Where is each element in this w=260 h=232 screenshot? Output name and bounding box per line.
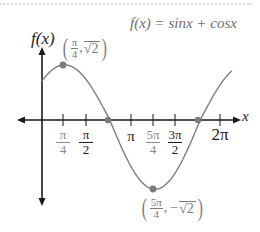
x-axis-left-arrow-icon [17,117,25,124]
tick-label-5pi-over-4: 5π4 [141,129,165,156]
function-title: f(x) = sinx + cosx [130,15,237,32]
tick-label-pi-over-2: π2 [74,129,98,156]
x-axis-right-arrow-icon [233,117,241,124]
minimum-point-label: ( 5π4 , − √2 ) [140,195,205,221]
minimum-point [150,186,157,193]
x-axis-label: x [242,108,249,125]
maximum-point [60,62,67,69]
zero-crossing-point-2 [195,117,201,123]
tick-label-3pi-over-2: 3π2 [163,129,187,156]
zero-crossing-point-1 [105,117,111,123]
y-axis-label: f(x) [31,29,55,49]
y-axis-down-arrow-icon [39,198,46,206]
maximum-point-label: ( π4 , √2 ) [61,35,109,61]
tick-label-pi: π [119,130,143,142]
function-curve [42,65,232,190]
tick-label-pi-over-4: π4 [51,129,75,156]
graph-figure: f(x) = sinx + cosx f(x) x π4 π2 π 5π4 3π… [0,0,260,232]
tick-label-2pi: 2π [206,129,234,141]
